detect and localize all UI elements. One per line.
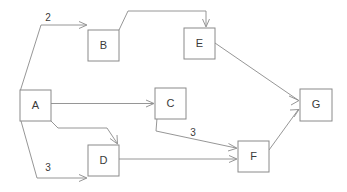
- node-g[interactable]: G: [300, 89, 332, 121]
- node-d[interactable]: D: [88, 145, 119, 176]
- edge-a-to-b-path: [21, 25, 87, 90]
- node-a[interactable]: A: [20, 90, 51, 121]
- edge-f-to-g-path: [269, 110, 298, 150]
- edge-a-to-d-upper: [51, 121, 118, 144]
- node-c[interactable]: C: [155, 88, 186, 119]
- edge-e-to-g: [215, 43, 299, 105]
- edge-a-to-d-upper-arrowhead: [110, 135, 118, 144]
- edge-c-to-f-label: 3: [190, 127, 196, 138]
- edge-a-to-b: [21, 22, 88, 91]
- node-b-label: B: [100, 39, 107, 51]
- node-e-label: E: [196, 37, 203, 49]
- edge-a-to-b-label: 2: [45, 12, 51, 23]
- node-g-label: G: [312, 98, 321, 110]
- edge-f-to-g: [269, 110, 299, 151]
- edge-a-to-d-lower-path: [21, 121, 86, 178]
- node-f-label: F: [250, 150, 257, 162]
- edge-a-to-d-upper-path: [51, 121, 117, 143]
- node-e[interactable]: E: [184, 28, 215, 59]
- edge-d-to-f: [119, 156, 237, 163]
- edge-b-to-e-path: [119, 11, 206, 30]
- graph-diagram: 3 2 3 A B: [0, 0, 347, 192]
- node-d-label: D: [100, 154, 108, 166]
- edge-a-to-d-lower: 3: [21, 121, 87, 182]
- edge-c-to-f-path: [156, 118, 236, 148]
- node-a-label: A: [32, 99, 40, 111]
- edge-e-to-g-path: [215, 43, 298, 100]
- node-b[interactable]: B: [88, 30, 119, 61]
- node-f[interactable]: F: [238, 141, 269, 172]
- node-c-label: C: [167, 97, 175, 109]
- edge-c-to-f: 3: [156, 118, 237, 151]
- edge-a-to-d-lower-label: 3: [45, 162, 51, 173]
- edge-b-to-e: [119, 11, 210, 30]
- graph-canvas: 3 2 3 A B: [0, 0, 347, 192]
- edge-a-to-c: [51, 100, 154, 107]
